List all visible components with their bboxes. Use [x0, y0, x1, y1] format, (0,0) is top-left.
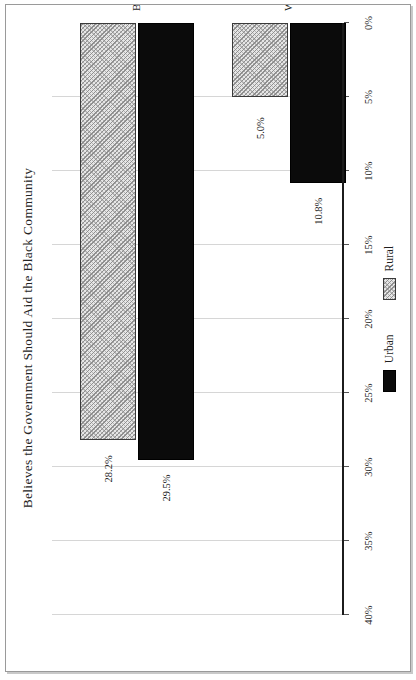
plot-area: 0%5%10%15%20%25%30%35%40% 28.2%29.5%5.0%…	[52, 23, 344, 615]
tick-mark	[344, 392, 349, 393]
tick-label: 10%	[363, 161, 374, 180]
tick-label: 0%	[363, 16, 374, 30]
legend-swatch-rural-icon	[383, 278, 396, 300]
tick-mark	[344, 540, 349, 541]
tick-mark	[344, 318, 349, 319]
legend-swatch-urban-icon	[383, 370, 396, 392]
value-axis-baseline	[342, 23, 344, 615]
category-label-blacks-other: Blacks & Other	[130, 5, 142, 11]
bar-value-label: 10.8%	[313, 198, 324, 225]
legend-entry-rural[interactable]: Rural	[383, 246, 396, 301]
bar-value-label: 5.0%	[255, 117, 266, 139]
legend-entry-urban[interactable]: Urban	[383, 334, 396, 392]
bar-rural-blacks-other	[80, 23, 136, 440]
tick-mark	[344, 466, 349, 467]
chart-legend: UrbanRural	[378, 23, 400, 615]
bar-urban-whites	[290, 23, 346, 183]
tick-label: 25%	[363, 383, 374, 402]
tick-label: 35%	[363, 531, 374, 550]
tick-mark	[344, 244, 349, 245]
gridline-30	[52, 466, 344, 467]
category-label-whites: Whites	[282, 5, 294, 11]
tick-mark	[344, 614, 349, 615]
bar-value-label: 29.5%	[161, 474, 172, 501]
tick-label: 40%	[363, 605, 374, 624]
bar-urban-blacks-other	[138, 23, 194, 460]
chart-title: Believes the Government Should Aid the B…	[20, 5, 36, 671]
bar-rural-whites	[232, 23, 288, 97]
chart-page: Believes the Government Should Aid the B…	[0, 0, 416, 680]
rotated-chart-wrapper: Believes the Government Should Aid the B…	[6, 5, 410, 671]
tick-label: 30%	[363, 457, 374, 476]
bar-value-label: 28.2%	[103, 455, 114, 482]
legend-label: Urban	[383, 334, 395, 363]
gridline-35	[52, 540, 344, 541]
tick-label: 15%	[363, 235, 374, 254]
tick-label: 5%	[363, 90, 374, 104]
legend-label: Rural	[383, 246, 395, 272]
tick-label: 20%	[363, 309, 374, 328]
gridline-40	[52, 614, 344, 615]
chart-canvas: Believes the Government Should Aid the B…	[6, 5, 410, 671]
